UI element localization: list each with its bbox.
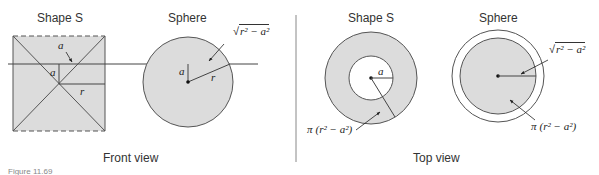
shape-s-front-title: Shape S xyxy=(37,12,83,24)
top-view-label: Top view xyxy=(413,152,460,164)
sphere-label-a: a xyxy=(179,66,185,77)
annulus-label-a: a xyxy=(378,66,384,77)
sphere-top-area-label: π (r² − a²) xyxy=(531,121,576,132)
annulus-area-label: π (r² − a²) xyxy=(307,124,352,135)
sphere-top-sqrt-label: √r² − a² xyxy=(549,44,585,55)
sphere-top xyxy=(452,30,548,122)
sphere-top-title: Sphere xyxy=(479,12,518,24)
figure-caption: Figure 11.69 xyxy=(8,168,52,175)
label-r: r xyxy=(80,86,84,97)
figure-canvas xyxy=(0,0,599,175)
label-a-top: a xyxy=(58,40,64,51)
shape-s-top xyxy=(325,32,417,130)
sphere-front-title: Sphere xyxy=(168,12,207,24)
sphere-front-sqrt-label: √r² − a² xyxy=(233,26,269,37)
front-view-label: Front view xyxy=(103,152,158,164)
label-a-side: a xyxy=(50,67,56,78)
sphere-label-r: r xyxy=(211,72,215,83)
sphere-front xyxy=(143,37,233,127)
shape-s-top-title: Shape S xyxy=(348,12,394,24)
